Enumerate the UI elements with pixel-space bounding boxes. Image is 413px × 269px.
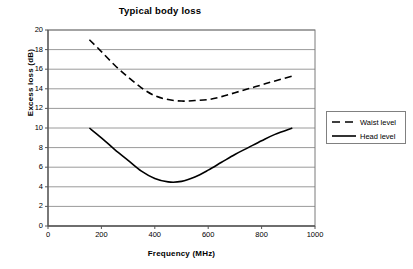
y-tick-label: 12 — [19, 104, 43, 112]
chart-title: Typical body loss — [0, 5, 320, 16]
x-tick-label: 400 — [135, 231, 175, 239]
x-tick-label: 1000 — [295, 231, 335, 239]
legend-label-waist-level: Waist level — [360, 118, 396, 127]
x-tick-label: 600 — [188, 231, 228, 239]
y-tick-label: 18 — [19, 46, 43, 54]
legend-item-waist-level: Waist level — [327, 115, 407, 129]
legend-swatch-solid-icon — [331, 131, 357, 141]
x-tick-label: 800 — [242, 231, 282, 239]
y-tick-label: 16 — [19, 65, 43, 73]
y-tick-label: 4 — [19, 183, 43, 191]
y-tick-label: 2 — [19, 202, 43, 210]
y-tick-label: 20 — [19, 26, 43, 34]
y-tick-label: 6 — [19, 163, 43, 171]
x-tick-label: 200 — [81, 231, 121, 239]
chart-legend: Waist level Head level — [326, 111, 406, 144]
x-tick-label: 0 — [28, 231, 68, 239]
legend-swatch-dashed-icon — [331, 117, 357, 127]
legend-label-head-level: Head level — [360, 132, 395, 141]
y-tick-label: 8 — [19, 144, 43, 152]
series-line-2 — [89, 128, 292, 182]
y-tick-label: 14 — [19, 85, 43, 93]
y-tick-label: 10 — [19, 124, 43, 132]
y-tick-label: 0 — [19, 222, 43, 230]
series-line-1 — [89, 40, 292, 101]
x-axis-title: Frequency (MHz) — [48, 249, 315, 258]
chart-container: Typical body loss Excess loss (dB) Frequ… — [0, 0, 413, 269]
legend-item-head-level: Head level — [327, 129, 407, 143]
